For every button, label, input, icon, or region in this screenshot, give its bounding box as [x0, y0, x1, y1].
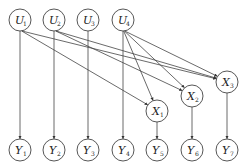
node-y7: Y7 — [216, 139, 238, 161]
node-subscript: 2 — [195, 96, 199, 103]
node-y2: Y2 — [43, 139, 65, 161]
edge-u4-x1 — [124, 31, 153, 101]
node-y4: Y4 — [112, 139, 134, 161]
node-subscript: 4 — [126, 150, 130, 157]
node-y3: Y3 — [77, 139, 99, 161]
node-x1: X1 — [146, 100, 168, 122]
causal-graph: U1U2U3U4X1X2X3Y1Y2Y3Y4Y5Y6Y7 — [0, 0, 247, 168]
node-u2: U2 — [43, 9, 65, 31]
node-u4: U4 — [112, 9, 134, 31]
edge-u2-x3 — [56, 31, 217, 78]
node-subscript: 3 — [91, 20, 95, 27]
node-subscript: 2 — [57, 150, 61, 157]
edge-u4-x3 — [125, 31, 218, 76]
edge-u1-x1 — [22, 31, 148, 105]
node-x2: X2 — [181, 85, 203, 107]
node-subscript: 1 — [23, 20, 27, 27]
node-u3: U3 — [77, 9, 99, 31]
node-subscript: 4 — [126, 20, 130, 27]
node-u1: U1 — [9, 9, 31, 31]
node-y1: Y1 — [9, 139, 31, 161]
edge-u2-x2 — [56, 31, 183, 91]
node-subscript: 3 — [230, 82, 234, 89]
node-y5: Y5 — [146, 139, 168, 161]
node-subscript: 1 — [23, 150, 27, 157]
nodes: U1U2U3U4X1X2X3Y1Y2Y3Y4Y5Y6Y7 — [9, 9, 238, 161]
node-y6: Y6 — [181, 139, 203, 161]
edges — [20, 31, 227, 139]
node-subscript: 3 — [91, 150, 95, 157]
node-subscript: 6 — [195, 150, 199, 157]
node-subscript: 2 — [57, 20, 61, 27]
node-x3: X3 — [216, 71, 238, 93]
node-subscript: 7 — [230, 150, 234, 157]
node-subscript: 1 — [160, 111, 164, 118]
edge-u1-x3 — [22, 31, 217, 79]
node-subscript: 5 — [160, 150, 164, 157]
edge-u4-x2 — [124, 31, 184, 88]
